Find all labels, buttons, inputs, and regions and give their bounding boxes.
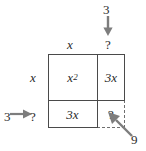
cell-top-right-label: 3x <box>105 71 118 84</box>
cell-top-left-exponent: 2 <box>73 73 78 82</box>
top-left-dimension-label: x <box>67 38 73 51</box>
cell-bottom-left-label: 3x <box>66 108 79 121</box>
cell-top-left: x2 <box>48 54 97 100</box>
left-top-dimension-label: x <box>30 71 36 84</box>
area-model-diagram: 3 x ? 3 x ? x2 3x 3x <box>0 0 146 151</box>
cell-bottom-left: 3x <box>48 100 97 128</box>
left-bottom-dimension-label: ? <box>30 110 36 123</box>
callout-value: 9 <box>131 133 138 146</box>
top-down-arrow-icon <box>100 16 116 36</box>
top-right-dimension-label: ? <box>105 38 111 51</box>
cell-top-right: 3x <box>97 54 125 100</box>
top-input-value: 3 <box>103 3 110 16</box>
left-right-arrow-icon <box>10 106 32 122</box>
